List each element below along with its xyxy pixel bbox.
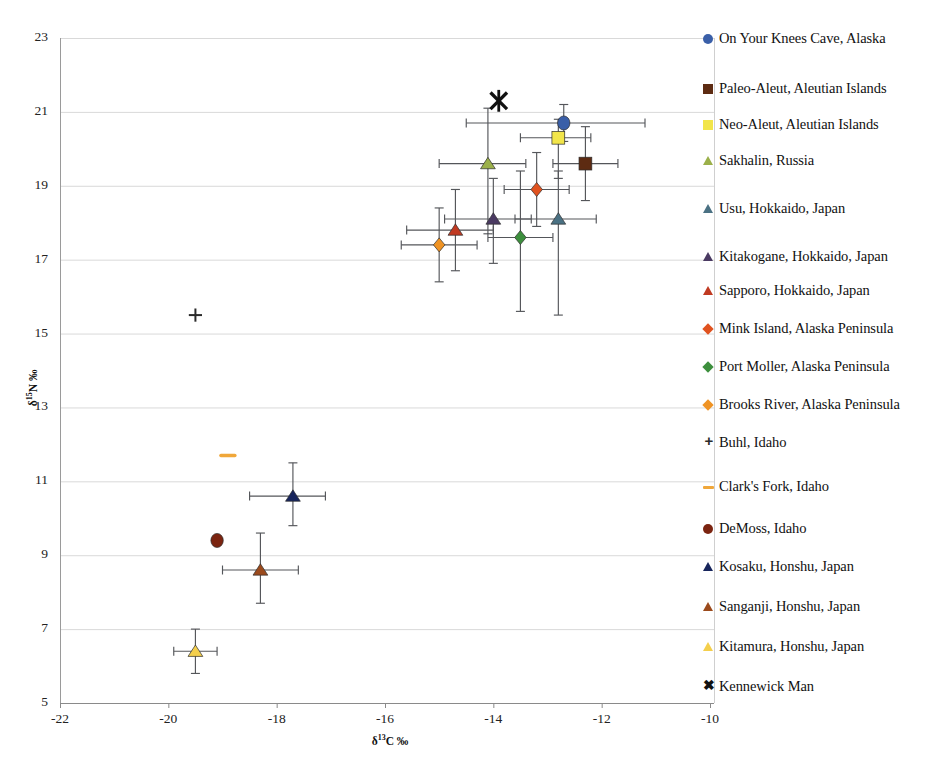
legend-item-on-your-knees-cave-alaska[interactable]: On Your Knees Cave, Alaska xyxy=(703,30,915,47)
y-tick-label: 23 xyxy=(8,29,48,45)
legend-item-label: Brooks River, Alaska Peninsula xyxy=(719,396,900,413)
legend-circle-icon xyxy=(703,524,713,534)
legend-item-neo-aleut-aleutian-islands[interactable]: Neo-Aleut, Aleutian Islands xyxy=(703,116,915,133)
errorbar-group-4 xyxy=(515,171,596,315)
legend-item-label: On Your Knees Cave, Alaska xyxy=(719,30,886,47)
y-tick-label: 19 xyxy=(8,177,48,193)
legend-marker xyxy=(703,358,716,375)
x-tick-label: -10 xyxy=(690,711,730,727)
legend-circle-icon xyxy=(703,34,713,44)
data-point-demoss-idaho xyxy=(211,533,223,547)
x-axis-title: δ13C ‰ xyxy=(330,733,450,747)
legend-square-icon xyxy=(703,84,713,94)
legend-item-label: Kitakogane, Hokkaido, Japan xyxy=(719,248,888,265)
legend-item-buhl-idaho[interactable]: +Buhl, Idaho xyxy=(703,434,915,451)
legend-item-clark-s-fork-idaho[interactable]: Clark's Fork, Idaho xyxy=(703,478,915,495)
legend-item-label: Usu, Hokkaido, Japan xyxy=(719,200,845,217)
x-tick-label: -18 xyxy=(257,711,297,727)
legend-triangle-icon xyxy=(703,602,713,611)
legend-asterisk-icon: ✖ xyxy=(703,677,715,693)
legend-item-demoss-idaho[interactable]: DeMoss, Idaho xyxy=(703,520,915,537)
legend-item-port-moller-alaska-peninsula[interactable]: Port Moller, Alaska Peninsula xyxy=(703,358,915,375)
legend-item-label: Buhl, Idaho xyxy=(719,434,786,451)
legend-item-kennewick-man[interactable]: ✖Kennewick Man xyxy=(703,678,915,695)
chart-legend: On Your Knees Cave, AlaskaPaleo-Aleut, A… xyxy=(703,30,915,710)
legend-item-sanganji-honshu-japan[interactable]: Sanganji, Honshu, Japan xyxy=(703,598,915,615)
data-point-buhl-idaho xyxy=(189,308,202,321)
errorbar-group-3 xyxy=(439,108,526,234)
legend-item-kitakogane-hokkaido-japan[interactable]: Kitakogane, Hokkaido, Japan xyxy=(703,248,915,265)
legend-marker xyxy=(703,598,716,615)
x-tick-label: -12 xyxy=(582,711,622,727)
legend-marker xyxy=(703,320,716,337)
x-tick-label: -20 xyxy=(148,711,188,727)
legend-item-sakhalin-russia[interactable]: Sakhalin, Russia xyxy=(703,152,915,169)
legend-item-usu-hokkaido-japan[interactable]: Usu, Hokkaido, Japan xyxy=(703,200,915,217)
legend-item-label: Clark's Fork, Idaho xyxy=(719,478,829,495)
legend-triangle-icon xyxy=(703,562,713,571)
legend-marker xyxy=(703,558,716,575)
y-tick-label: 7 xyxy=(8,620,48,636)
legend-item-kitamura-honshu-japan[interactable]: Kitamura, Honshu, Japan xyxy=(703,638,915,655)
y-tick-label: 5 xyxy=(8,694,48,710)
legend-marker xyxy=(703,30,716,47)
chart-page: 23211917151311975 -22-20-18-16-14-12-10 … xyxy=(0,0,926,772)
legend-triangle-icon xyxy=(703,204,713,213)
legend-item-label: Kosaku, Honshu, Japan xyxy=(719,558,854,575)
y-tick-label: 21 xyxy=(8,103,48,119)
y-tick-label: 9 xyxy=(8,546,48,562)
legend-marker xyxy=(703,478,716,495)
legend-triangle-icon xyxy=(703,286,713,295)
data-point-neo-aleut-aleutian-islands xyxy=(552,131,565,144)
legend-marker xyxy=(703,520,716,537)
x-tick-label: -16 xyxy=(365,711,405,727)
legend-item-brooks-river-alaska-peninsula[interactable]: Brooks River, Alaska Peninsula xyxy=(703,396,915,413)
y-axis-title: δ15N ‰ xyxy=(25,350,39,426)
legend-item-label: Sanganji, Honshu, Japan xyxy=(719,598,860,615)
legend-marker xyxy=(703,200,716,217)
data-point-port-moller-alaska-peninsula xyxy=(515,231,526,245)
x-tick-label: -14 xyxy=(473,711,513,727)
data-point-kennewick-man xyxy=(490,90,507,112)
legend-triangle-icon xyxy=(703,252,713,261)
legend-item-label: Sakhalin, Russia xyxy=(719,152,814,169)
x-tick-label: -22 xyxy=(40,711,80,727)
legend-square-icon xyxy=(703,120,713,130)
errorbar-group-6 xyxy=(407,189,494,270)
legend-marker xyxy=(703,248,716,265)
legend-item-label: Sapporo, Hokkaido, Japan xyxy=(719,282,870,299)
legend-diamond-icon xyxy=(702,399,713,410)
legend-diamond-icon xyxy=(702,361,713,372)
legend-item-label: Port Moller, Alaska Peninsula xyxy=(719,358,890,375)
legend-item-label: Kitamura, Honshu, Japan xyxy=(719,638,864,655)
legend-item-label: Kennewick Man xyxy=(719,678,814,695)
legend-diamond-icon xyxy=(702,323,713,334)
data-point-on-your-knees-cave-alaska xyxy=(558,116,570,130)
y-tick-label: 17 xyxy=(8,251,48,267)
legend-dash-icon xyxy=(703,486,714,489)
data-point-paleo-aleut-aleutian-islands xyxy=(579,157,592,170)
legend-item-kosaku-honshu-japan[interactable]: Kosaku, Honshu, Japan xyxy=(703,558,915,575)
legend-marker: + xyxy=(703,434,716,451)
legend-marker xyxy=(703,80,716,97)
legend-triangle-icon xyxy=(703,156,713,165)
legend-triangle-icon xyxy=(703,642,713,651)
y-tick-label: 15 xyxy=(8,325,48,341)
legend-marker xyxy=(703,396,716,413)
legend-item-mink-island-alaska-peninsula[interactable]: Mink Island, Alaska Peninsula xyxy=(703,320,915,337)
legend-item-sapporo-hokkaido-japan[interactable]: Sapporo, Hokkaido, Japan xyxy=(703,282,915,299)
legend-marker xyxy=(703,282,716,299)
legend-plus-icon: + xyxy=(703,434,715,448)
legend-marker xyxy=(703,152,716,169)
errorbar-group-13 xyxy=(250,463,326,526)
legend-item-paleo-aleut-aleutian-islands[interactable]: Paleo-Aleut, Aleutian Islands xyxy=(703,80,915,97)
legend-item-label: DeMoss, Idaho xyxy=(719,520,806,537)
legend-marker xyxy=(703,116,716,133)
data-point-mink-island-alaska-peninsula xyxy=(531,182,542,196)
legend-marker: ✖ xyxy=(703,678,716,695)
legend-marker xyxy=(703,638,716,655)
data-point-brooks-river-alaska-peninsula xyxy=(433,238,444,252)
legend-item-label: Paleo-Aleut, Aleutian Islands xyxy=(719,80,886,97)
y-tick-label: 11 xyxy=(8,472,48,488)
legend-item-label: Neo-Aleut, Aleutian Islands xyxy=(719,116,879,133)
